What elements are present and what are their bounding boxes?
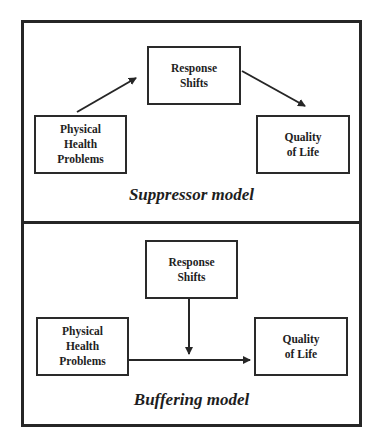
suppressor-quality-of-life-box: Quality of Life (256, 115, 350, 174)
buffering-model-title: Buffering model (21, 390, 362, 410)
box-label-line: Physical (57, 122, 103, 137)
box-label-line: of Life (282, 347, 319, 362)
box-label-line: Physical (59, 324, 105, 339)
box-label-line: Quality (282, 332, 319, 347)
buffering-physical-health-box: Physical Health Problems (36, 317, 129, 376)
box-label-line: Problems (57, 152, 103, 167)
buffering-quality-of-life-box: Quality of Life (254, 317, 348, 376)
box-label-line: Shifts (171, 76, 217, 91)
suppressor-response-shifts-box: Response Shifts (147, 46, 241, 105)
box-label-line: Shifts (168, 270, 214, 285)
panel-divider (21, 221, 362, 224)
box-label-line: of Life (284, 145, 321, 160)
buffering-response-shifts-box: Response Shifts (145, 240, 238, 299)
suppressor-model-title: Suppressor model (21, 185, 362, 205)
box-label-line: Problems (59, 354, 105, 369)
box-label-line: Response (168, 255, 214, 270)
box-label-line: Quality (284, 130, 321, 145)
box-label-line: Health (59, 339, 105, 354)
suppressor-physical-health-box: Physical Health Problems (34, 115, 127, 174)
box-label-line: Response (171, 61, 217, 76)
box-label-line: Health (57, 137, 103, 152)
